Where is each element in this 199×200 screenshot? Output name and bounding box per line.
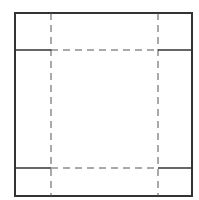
box-net-diagram (0, 0, 199, 200)
